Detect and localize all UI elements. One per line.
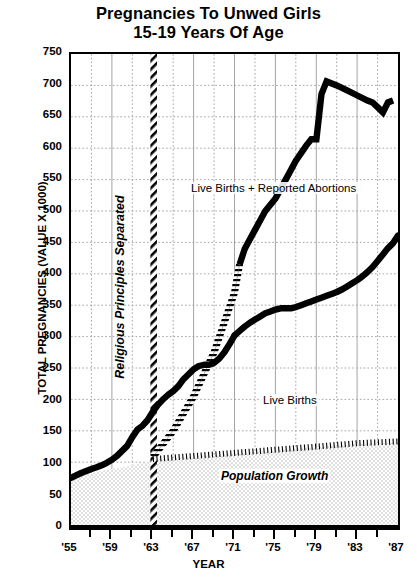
x-axis-line (69, 527, 400, 530)
y-tick-label: 600 (28, 141, 62, 152)
x-tick (150, 530, 152, 539)
y-tick-label: 750 (28, 46, 62, 57)
x-tick-label: '79 (294, 541, 334, 553)
x-tick (212, 530, 214, 537)
y-tick-label: 0 (28, 520, 62, 531)
x-tick (89, 530, 91, 537)
x-tick-label: '71 (213, 541, 253, 553)
x-tick (273, 530, 275, 539)
x-tick (109, 530, 111, 539)
x-tick-label: '67 (172, 541, 212, 553)
x-tick (294, 530, 296, 537)
y-tick-label: 350 (28, 299, 62, 310)
x-tick (232, 530, 234, 539)
x-tick (253, 530, 255, 537)
y-tick-label: 100 (28, 457, 62, 468)
y-tick-label: 450 (28, 236, 62, 247)
y-tick-label: 200 (28, 394, 62, 405)
y-axis-title: TOTAL PREGNANCIES (VALUE X 1000) (36, 158, 48, 418)
chart-title-line1: Pregnancies To Unwed Girls (96, 4, 321, 22)
y-tick-label: 50 (28, 489, 62, 500)
annotation-live-births-plus-reported-abortions: Live Births + Reported Abortions (189, 182, 358, 194)
x-tick (355, 530, 357, 539)
annotation-live-births: Live Births (261, 394, 319, 406)
reported-abortions-hatched-outline (153, 264, 240, 457)
annotation-population-growth: Population Growth (219, 469, 330, 483)
y-tick-label: 300 (28, 330, 62, 341)
x-tick-label: '59 (90, 541, 130, 553)
x-tick (314, 530, 316, 539)
y-tick-label: 150 (28, 425, 62, 436)
y-tick-label: 500 (28, 204, 62, 215)
reported-abortions-hatched-line (153, 264, 240, 457)
x-tick-label: '87 (376, 541, 416, 553)
x-tick-label: '83 (335, 541, 375, 553)
y-tick-label: 250 (28, 362, 62, 373)
x-tick (191, 530, 193, 539)
annotation-religious-principles-separated: Religious Principles Separated (113, 162, 127, 412)
x-tick (130, 530, 132, 537)
x-tick-label: '63 (131, 541, 171, 553)
x-tick-label: '55 (49, 541, 89, 553)
y-tick-label: 400 (28, 267, 62, 278)
x-tick (335, 530, 337, 537)
chart-title: Pregnancies To Unwed Girls 15-19 Years O… (0, 4, 417, 42)
y-tick-label: 650 (28, 109, 62, 120)
chart-root: Pregnancies To Unwed Girls 15-19 Years O… (0, 0, 417, 580)
plot-area: Religious Principles Separated Live Birt… (69, 52, 400, 527)
y-tick-label: 550 (28, 172, 62, 183)
y-tick-label: 700 (28, 78, 62, 89)
x-tick (171, 530, 173, 537)
x-tick (376, 530, 378, 537)
x-axis-title: YEAR (0, 558, 417, 570)
x-tick-label: '75 (253, 541, 293, 553)
chart-title-line2: 15-19 Years Of Age (0, 23, 417, 42)
